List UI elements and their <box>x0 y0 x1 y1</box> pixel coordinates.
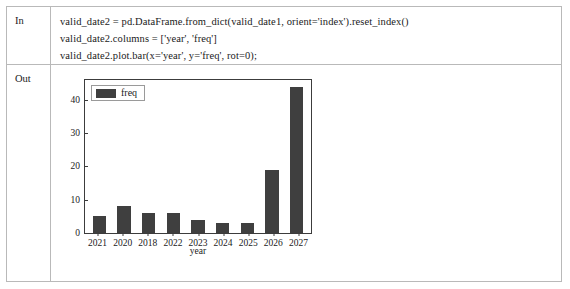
chart-legend: freq <box>91 85 145 101</box>
x-axis-label: year <box>84 246 312 257</box>
in-label: In <box>15 15 24 26</box>
legend-label-freq: freq <box>121 88 137 98</box>
bar-slot <box>284 80 309 233</box>
bar-slot <box>235 80 260 233</box>
code-line-2: valid_date2.columns = ['year', 'freq'] <box>60 30 561 47</box>
legend-swatch-freq <box>96 89 116 98</box>
input-cell-gutter: In <box>7 7 51 64</box>
notebook-container: In valid_date2 = pd.DataFrame.from_dict(… <box>6 6 562 282</box>
bar-2022 <box>167 213 181 233</box>
bar-2026 <box>265 170 279 233</box>
code-line-1: valid_date2 = pd.DataFrame.from_dict(val… <box>60 13 561 30</box>
code-line-3: valid_date2.plot.bar(x='year', y='freq',… <box>60 47 561 64</box>
input-cell-body[interactable]: valid_date2 = pd.DataFrame.from_dict(val… <box>51 7 561 64</box>
out-label: Out <box>15 73 31 84</box>
bar-2021 <box>93 216 107 233</box>
bar-slot <box>136 80 161 233</box>
bar-chart-figure: freq 010203040 2021202020182022202320242… <box>62 73 330 259</box>
bar-slot <box>87 80 112 233</box>
bar-2023 <box>191 220 205 233</box>
bar-2025 <box>241 223 255 233</box>
output-cell-gutter: Out <box>7 65 51 281</box>
output-cell-body: freq 010203040 2021202020182022202320242… <box>51 65 561 281</box>
bar-slot <box>112 80 137 233</box>
bar-slot <box>161 80 186 233</box>
bar-2018 <box>142 213 156 233</box>
bar-slot <box>260 80 285 233</box>
bar-2024 <box>216 223 230 233</box>
bar-group <box>85 80 311 233</box>
bar-slot <box>186 80 211 233</box>
y-tick-20: 20 <box>71 161 86 171</box>
bar-slot <box>210 80 235 233</box>
y-tick-0: 0 <box>75 228 85 238</box>
plot-area: freq 010203040 2021202020182022202320242… <box>84 79 312 234</box>
input-cell: In valid_date2 = pd.DataFrame.from_dict(… <box>7 7 561 65</box>
y-tick-30: 30 <box>71 128 86 138</box>
bar-2027 <box>290 87 304 233</box>
y-tick-10: 10 <box>71 195 86 205</box>
y-tick-40: 40 <box>71 95 86 105</box>
bar-2020 <box>117 206 131 233</box>
output-cell: Out freq 010203040 202120202018202220232… <box>7 65 561 281</box>
